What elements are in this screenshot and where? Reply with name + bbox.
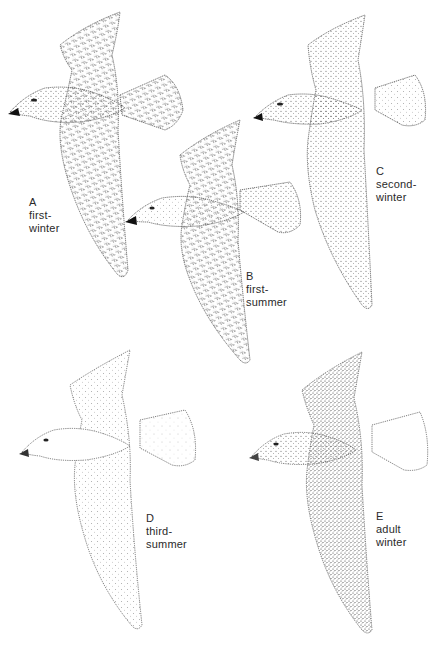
- bird-b-first-summer: [125, 120, 301, 363]
- bird-a-first-winter: [8, 12, 183, 277]
- label-e-line2: winter: [376, 536, 407, 549]
- label-c-letter: C: [376, 165, 417, 178]
- label-a: A first- winter: [29, 196, 60, 235]
- label-d: D third- summer: [146, 512, 187, 551]
- bird-d-third-summer: [19, 350, 196, 629]
- bird-b-eye-icon: [149, 206, 154, 209]
- bird-c-eye-icon: [277, 102, 283, 105]
- gull-plate-illustration: [0, 0, 431, 658]
- label-a-line1: first-: [29, 209, 60, 222]
- label-a-letter: A: [29, 196, 60, 209]
- bird-c-second-winter: [253, 15, 426, 309]
- label-e: E adult winter: [376, 510, 407, 549]
- label-d-letter: D: [146, 512, 187, 525]
- bird-d-eye-icon: [43, 439, 48, 442]
- label-e-letter: E: [376, 510, 407, 523]
- label-c: C second- winter: [376, 165, 417, 204]
- label-d-line1: third-: [146, 525, 187, 538]
- label-b-line1: first-: [246, 283, 287, 296]
- label-e-line1: adult: [376, 523, 407, 536]
- label-b: B first- summer: [246, 270, 287, 309]
- label-a-line2: winter: [29, 222, 60, 235]
- bird-e-adult-winter: [249, 352, 428, 633]
- label-b-letter: B: [246, 270, 287, 283]
- label-c-line2: winter: [376, 191, 417, 204]
- bird-a-eye-icon: [31, 98, 37, 101]
- bird-e-eye-icon: [273, 443, 278, 446]
- label-c-line1: second-: [376, 178, 417, 191]
- label-b-line2: summer: [246, 296, 287, 309]
- label-d-line2: summer: [146, 538, 187, 551]
